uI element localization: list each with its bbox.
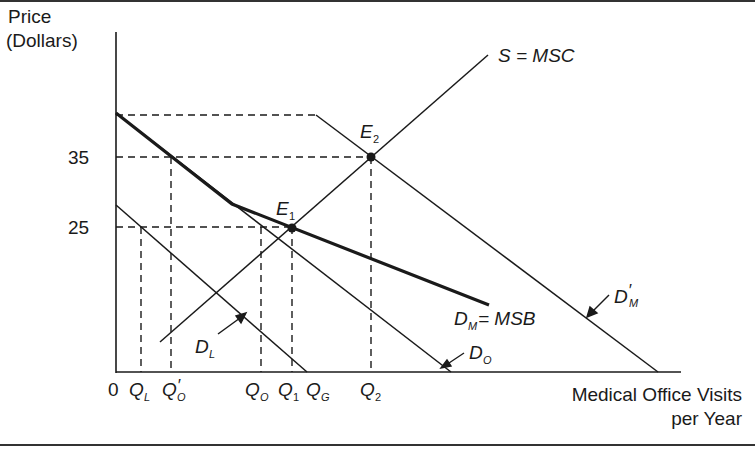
x-tick-q-o: Q O — [245, 379, 269, 403]
svg-text:E: E — [276, 198, 289, 219]
d-l-arrow-icon — [218, 318, 240, 334]
x-tick-q-g: Q G — [306, 379, 330, 403]
demand-curve-d-l — [116, 205, 307, 372]
label-s-msc: S = MSC — [498, 45, 575, 66]
svg-text:Q: Q — [162, 379, 177, 400]
equilibrium-point-e1 — [288, 224, 297, 233]
label-d-m-msb: D M = MSB — [454, 308, 536, 332]
svg-text:2: 2 — [373, 133, 379, 145]
svg-text:M: M — [629, 297, 639, 309]
x-tick-q-l: Q L — [129, 379, 150, 403]
svg-text:2: 2 — [375, 391, 381, 403]
x-axis-label-line1: Medical Office Visits — [572, 384, 742, 405]
svg-text:O: O — [260, 391, 269, 403]
x-tick-q-o-prime: Q ′ O — [162, 376, 186, 403]
svg-text:G: G — [321, 391, 330, 403]
svg-text:Q: Q — [129, 379, 144, 400]
demand-curve-d-m-msb — [116, 113, 489, 305]
x-axis-label-line2: per Year — [671, 408, 742, 429]
y-axis-label-dollars: (Dollars) — [6, 30, 78, 51]
svg-text:1: 1 — [293, 391, 299, 403]
chart-canvas: Price (Dollars) 35 25 0 Q L Q ′ O Q O Q … — [0, 0, 755, 458]
svg-text:1: 1 — [289, 210, 295, 222]
svg-text:Q: Q — [245, 379, 260, 400]
demand-curve-d-m-prime — [316, 115, 658, 372]
svg-text:D: D — [454, 308, 468, 329]
label-d-o: D O — [469, 342, 492, 366]
pointer-arrows — [218, 295, 609, 368]
svg-text:M: M — [468, 320, 478, 332]
y-tick-25: 25 — [68, 217, 89, 238]
svg-text:D: D — [195, 336, 209, 357]
svg-text:L: L — [209, 348, 215, 360]
equilibrium-point-e2 — [367, 153, 376, 162]
svg-text:E: E — [360, 121, 373, 142]
label-e2: E 2 — [360, 121, 379, 145]
svg-text:O: O — [483, 354, 492, 366]
y-tick-35: 35 — [68, 147, 89, 168]
label-e1: E 1 — [276, 198, 295, 222]
svg-text:Q: Q — [306, 379, 321, 400]
svg-text:Q: Q — [278, 379, 293, 400]
svg-text:Q: Q — [360, 379, 375, 400]
label-d-m-prime: D ′ M — [614, 281, 639, 309]
d-m-prime-arrow-icon — [593, 295, 609, 311]
label-d-l: D L — [195, 336, 215, 360]
y-axis-label-price: Price — [8, 6, 51, 27]
svg-text:O: O — [177, 391, 186, 403]
svg-text:D: D — [614, 286, 628, 307]
svg-text:L: L — [144, 391, 150, 403]
x-tick-0: 0 — [108, 379, 119, 400]
svg-text:D: D — [469, 342, 483, 363]
x-tick-q-1: Q 1 — [278, 379, 299, 403]
svg-text:= MSB: = MSB — [478, 308, 536, 329]
x-tick-q-2: Q 2 — [360, 379, 381, 403]
supply-curve-msc — [160, 55, 488, 342]
